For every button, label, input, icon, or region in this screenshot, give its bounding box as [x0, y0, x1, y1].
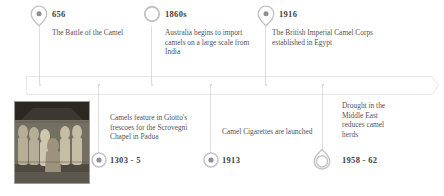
- event-year-battle-of-the-camel: 656: [52, 9, 66, 19]
- event-description-camel-cigarettes-launched: Camel Cigarettes are launched: [222, 127, 314, 137]
- axis-tick: [39, 84, 41, 86]
- event-year-british-imperial-camel-corps: 1916: [279, 9, 297, 19]
- event-stem-camel-cigarettes-launched: [210, 86, 211, 160]
- axis-tick: [151, 84, 153, 86]
- marker-ring-dot-icon-camel-cigarettes-launched[interactable]: [202, 151, 220, 169]
- marker-ring-icon-australia-imports-camels[interactable]: [143, 5, 161, 27]
- event-stem-battle-of-the-camel: [39, 26, 40, 84]
- marker-ring-dot-icon-giotto-frescoes[interactable]: [90, 151, 108, 169]
- marker-pin-dot-icon-british-imperial-camel-corps[interactable]: [257, 5, 275, 27]
- timeline-axis-band: [26, 76, 421, 95]
- event-description-australia-imports-camels: Australia begins to import camels on a l…: [165, 28, 257, 57]
- timeline-axis-arrow-icon: [420, 76, 439, 95]
- timeline-figure: 656 The Battle of the Camel 1860s Austra…: [0, 0, 444, 196]
- event-stem-giotto-frescoes: [98, 86, 99, 160]
- event-stem-middle-east-drought: [322, 86, 323, 156]
- event-stem-british-imperial-camel-corps: [265, 26, 266, 84]
- event-year-camel-cigarettes-launched: 1913: [222, 155, 240, 165]
- event-year-australia-imports-camels: 1860s: [165, 9, 187, 19]
- event-description-british-imperial-camel-corps: The British Imperial Camel Corps establi…: [272, 28, 384, 47]
- marker-pin-dot-icon-battle-of-the-camel[interactable]: [30, 5, 48, 27]
- event-year-middle-east-drought: 1958 - 62: [342, 155, 377, 165]
- event-description-giotto-frescoes: Camels feature in Giotto's frescoes for …: [110, 113, 206, 142]
- event-description-battle-of-the-camel: The Battle of the Camel: [52, 28, 160, 38]
- marker-inverted-pin-icon-middle-east-drought[interactable]: [313, 148, 331, 170]
- axis-tick: [265, 84, 267, 86]
- event-year-giotto-frescoes: 1303 - 5: [110, 155, 141, 165]
- event-description-middle-east-drought: Drought in the Middle East reduces camel…: [342, 101, 400, 139]
- giotto-fresco-thumbnail: [14, 101, 90, 184]
